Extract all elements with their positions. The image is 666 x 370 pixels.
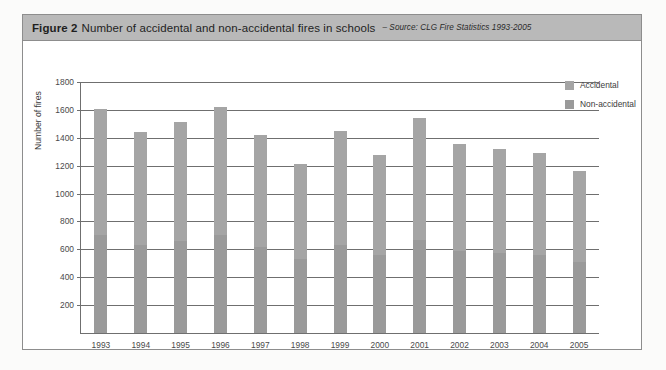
bar-segment-accidental	[214, 107, 227, 235]
page-canvas: Figure 2 Number of accidental and non-ac…	[0, 0, 666, 370]
x-tick-label-1995: 1995	[171, 340, 190, 350]
bar-segment-non-accidental	[573, 262, 586, 333]
legend-item-2: Non-accidental	[565, 99, 636, 109]
legend-label: Accidental	[580, 80, 619, 90]
bar-segment-non-accidental	[493, 253, 506, 333]
bar-segment-non-accidental	[294, 259, 307, 333]
y-tick-mark	[77, 249, 81, 250]
y-tick-mark	[77, 305, 81, 306]
figure-source: – Source: CLG Fire Statistics 1993-2005	[382, 23, 531, 32]
bar-1997	[254, 135, 267, 333]
legend-swatch-icon	[565, 81, 574, 90]
y-tick-mark	[77, 194, 81, 195]
x-tick-label-1996: 1996	[211, 340, 230, 350]
bar-segment-non-accidental	[254, 247, 267, 333]
y-tick-label: 400	[60, 272, 74, 282]
bar-1994	[134, 132, 147, 333]
x-tick-label-2003: 2003	[490, 340, 509, 350]
y-tick-mark	[77, 138, 81, 139]
bar-2003	[493, 149, 506, 333]
gridline	[81, 82, 599, 83]
bar-segment-non-accidental	[94, 235, 107, 333]
bar-segment-non-accidental	[174, 241, 187, 333]
bar-segment-non-accidental	[134, 245, 147, 333]
y-tick-label: 1200	[55, 161, 74, 171]
bar-segment-non-accidental	[533, 255, 546, 333]
x-tick-label-1994: 1994	[131, 340, 150, 350]
figure-caption-bar: Figure 2 Number of accidental and non-ac…	[23, 15, 641, 41]
bar-segment-accidental	[134, 132, 147, 246]
bar-segment-accidental	[254, 135, 267, 247]
bar-1995	[174, 122, 187, 333]
bar-segment-accidental	[373, 155, 386, 255]
bar-2004	[533, 153, 546, 333]
x-tick-label-1998: 1998	[291, 340, 310, 350]
y-tick-label: 1000	[55, 189, 74, 199]
plot-area: 20040060080010001200140016001800 1993199…	[80, 82, 599, 334]
bar-1999	[334, 131, 347, 333]
y-tick-label: 1600	[55, 105, 74, 115]
y-tick-label: 200	[60, 300, 74, 310]
y-tick-mark	[77, 221, 81, 222]
bar-segment-non-accidental	[334, 245, 347, 333]
bar-segment-accidental	[294, 164, 307, 260]
bar-segment-non-accidental	[214, 235, 227, 333]
gridline	[81, 110, 599, 111]
bar-segment-accidental	[94, 109, 107, 236]
bar-segment-non-accidental	[413, 240, 426, 333]
figure-number: Figure 2	[32, 22, 78, 34]
x-tick-label-2002: 2002	[450, 340, 469, 350]
bar-segment-accidental	[334, 131, 347, 245]
bar-segment-accidental	[533, 153, 546, 255]
y-axis-title: Number of fires	[33, 91, 43, 150]
x-tick-label-1993: 1993	[92, 340, 111, 350]
x-tick-label-1999: 1999	[331, 340, 350, 350]
x-tick-label-2000: 2000	[371, 340, 390, 350]
bar-segment-non-accidental	[373, 255, 386, 333]
bar-segment-accidental	[453, 144, 466, 251]
bar-segment-non-accidental	[453, 251, 466, 333]
y-tick-mark	[77, 277, 81, 278]
figure-title: Number of accidental and non-accidental …	[82, 22, 376, 34]
legend-swatch-icon	[565, 100, 574, 109]
bar-2002	[453, 144, 466, 333]
y-tick-mark	[77, 166, 81, 167]
y-tick-label: 1400	[55, 133, 74, 143]
bar-segment-accidental	[573, 171, 586, 262]
chart-area: Number of fires 200400600800100012001400…	[23, 42, 641, 349]
legend-item-1: Accidental	[565, 80, 636, 90]
legend-label: Non-accidental	[580, 99, 636, 109]
bar-1996	[214, 107, 227, 333]
x-tick-label-2005: 2005	[570, 340, 589, 350]
bar-segment-accidental	[493, 149, 506, 253]
y-tick-label: 1800	[55, 77, 74, 87]
bar-1998	[294, 164, 307, 333]
bar-segment-accidental	[413, 118, 426, 240]
bar-2001	[413, 118, 426, 333]
chart-legend: AccidentalNon-accidental	[565, 80, 636, 118]
y-tick-mark	[77, 110, 81, 111]
y-tick-label: 600	[60, 244, 74, 254]
figure-container: Figure 2 Number of accidental and non-ac…	[22, 14, 642, 350]
bar-1993	[94, 109, 107, 334]
x-tick-label-2001: 2001	[410, 340, 429, 350]
x-tick-label-2004: 2004	[530, 340, 549, 350]
y-tick-mark	[77, 82, 81, 83]
bar-segment-accidental	[174, 122, 187, 241]
bar-2000	[373, 155, 386, 333]
bar-2005	[573, 171, 586, 333]
x-tick-label-1997: 1997	[251, 340, 270, 350]
y-tick-label: 800	[60, 216, 74, 226]
